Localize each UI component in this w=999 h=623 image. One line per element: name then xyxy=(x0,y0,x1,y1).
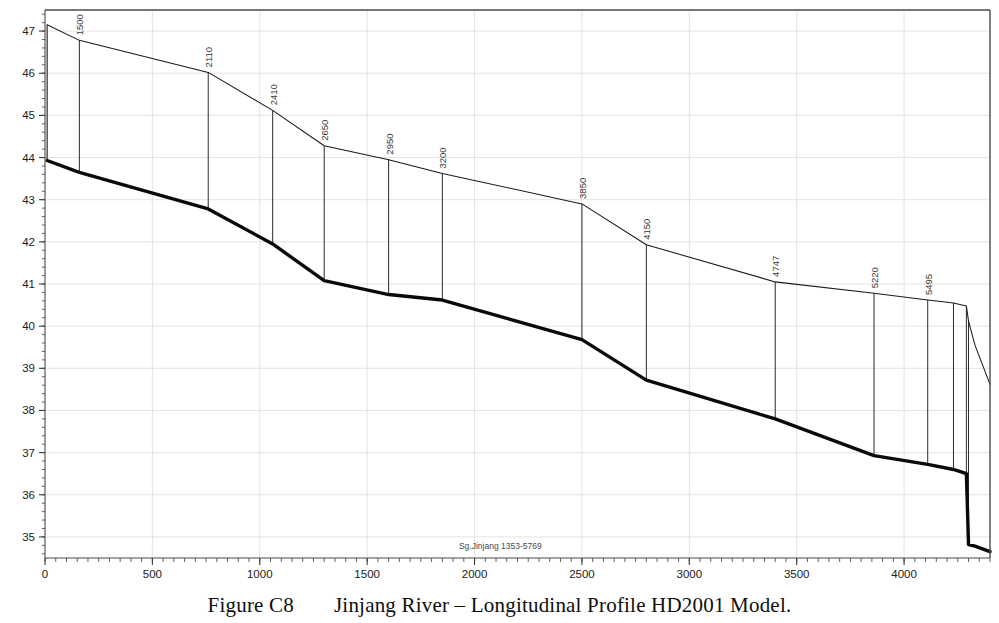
river-bed-profile xyxy=(47,160,990,551)
y-axis-tick-label: 45 xyxy=(22,109,35,121)
y-axis-tick-label: 40 xyxy=(22,320,35,332)
x-axis-tick-label: 0 xyxy=(42,568,48,580)
cross-section-label: 3200 xyxy=(437,147,448,168)
longitudinal-profile-chart: 3536373839404142434445464705001000150020… xyxy=(0,0,999,590)
x-axis-tick-label: 2000 xyxy=(462,568,488,580)
y-axis-tick-label: 41 xyxy=(22,278,35,290)
x-axis-tick-label: 500 xyxy=(143,568,162,580)
x-axis-tick-label: 1500 xyxy=(354,568,380,580)
x-axis-tick-label: 3000 xyxy=(677,568,703,580)
y-axis-tick-label: 37 xyxy=(22,447,35,459)
inline-annotation-layer: Sg.Jinjang 1353-5769 xyxy=(459,541,542,551)
x-axis-tick-label: 3500 xyxy=(784,568,810,580)
x-axis-tick-label: 1000 xyxy=(247,568,273,580)
figure-caption-text: Jinjang River – Longitudinal Profile HD2… xyxy=(334,593,791,618)
y-axis-tick-label: 39 xyxy=(22,362,35,374)
figure-number: Figure C8 xyxy=(208,593,294,618)
y-axis-tick-label: 46 xyxy=(22,67,35,79)
gridlines-layer xyxy=(45,10,990,558)
x-axis-tick-label: 4000 xyxy=(891,568,917,580)
figure-container: 3536373839404142434445464705001000150020… xyxy=(0,0,999,623)
y-axis-tick-label: 35 xyxy=(22,531,35,543)
y-axis-tick-label: 38 xyxy=(22,404,35,416)
cross-section-label: 2110 xyxy=(203,47,214,67)
cross-section-label: 2950 xyxy=(384,134,395,155)
y-axis-tick-label: 44 xyxy=(22,152,35,164)
cross-section-label: 2650 xyxy=(319,120,330,141)
cross-section-label: 2410 xyxy=(268,84,279,105)
cross-section-labels-layer: 1500211024102650295032003850415047475220… xyxy=(74,14,933,295)
river-reach-annotation: Sg.Jinjang 1353-5769 xyxy=(459,541,542,551)
cross-section-lines-layer xyxy=(79,40,968,544)
series-layer xyxy=(47,25,990,552)
y-axis-tick-label: 47 xyxy=(22,25,35,37)
cross-section-label: 4747 xyxy=(770,256,781,277)
cross-section-label: 5495 xyxy=(923,274,934,295)
cross-section-label: 1500 xyxy=(74,14,85,35)
chart-svg: 3536373839404142434445464705001000150020… xyxy=(0,0,999,590)
axis-labels-layer: 3536373839404142434445464705001000150020… xyxy=(22,25,917,580)
x-axis-tick-label: 2500 xyxy=(569,568,595,580)
axis-ticks-layer xyxy=(39,14,990,565)
cross-section-label: 3850 xyxy=(577,178,588,199)
figure-caption: Figure C8 Jinjang River – Longitudinal P… xyxy=(0,588,999,623)
y-axis-tick-label: 36 xyxy=(22,489,35,501)
y-axis-tick-label: 43 xyxy=(22,194,35,206)
cross-section-label: 4150 xyxy=(641,219,652,240)
y-axis-tick-label: 42 xyxy=(22,236,35,248)
cross-section-label: 5220 xyxy=(869,267,880,288)
